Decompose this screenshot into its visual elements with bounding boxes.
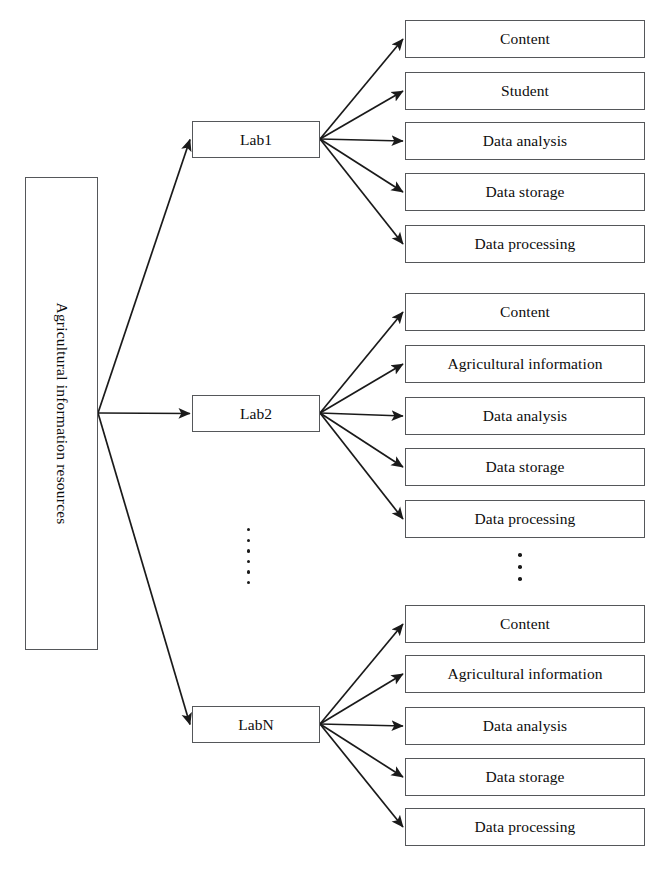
leaf-node-label: Data analysis [483, 717, 567, 734]
leaf-node-label: Data storage [485, 768, 564, 785]
leaf-node-label: Data processing [475, 818, 576, 835]
root-node-label: Agricultural information resources [53, 302, 70, 524]
edge-lab2-to-leaf-3 [320, 413, 403, 467]
leaf-node-label: Data processing [475, 235, 576, 252]
lab-node-2[interactable]: Lab2 [192, 395, 320, 432]
leaf-node-lab1-data-storage[interactable]: Data storage [405, 173, 645, 211]
leaf-node-lab2-data-analysis[interactable]: Data analysis [405, 397, 645, 435]
edge-root-to-lab2 [98, 413, 190, 414]
leaf-node-lab2-data-processing[interactable]: Data processing [405, 500, 645, 538]
edge-lab2-to-leaf-1 [320, 364, 403, 413]
leaf-node-lab1-content[interactable]: Content [405, 20, 645, 58]
leaf-node-label: Student [501, 82, 549, 99]
edge-lab1-to-leaf-1 [320, 91, 403, 139]
root-node-agricultural-information-resources[interactable]: Agricultural information resources [25, 177, 98, 650]
edge-lab2-to-leaf-2 [320, 413, 403, 416]
leaf-node-label: Data storage [485, 183, 564, 200]
lab-node-n[interactable]: LabN [192, 706, 320, 743]
leaf-node-label: Agricultural information [447, 665, 602, 682]
lab-column-ellipsis-icon [247, 528, 250, 591]
edge-lab1-to-leaf-3 [320, 139, 403, 192]
leaf-node-label: Content [500, 303, 550, 320]
edge-lab1-to-leaf-0 [320, 39, 403, 139]
leaf-node-lab1-data-processing[interactable]: Data processing [405, 225, 645, 263]
leaf-node-label: Content [500, 30, 550, 47]
leaf-node-labn-agricultural-information[interactable]: Agricultural information [405, 655, 645, 693]
lab-node-n-label: LabN [238, 716, 274, 733]
leaf-node-lab2-content[interactable]: Content [405, 293, 645, 331]
lab-node-1-label: Lab1 [240, 131, 272, 148]
lab-node-1[interactable]: Lab1 [192, 121, 320, 158]
edge-root-to-lab1 [98, 140, 190, 414]
leaf-node-lab1-student[interactable]: Student [405, 72, 645, 110]
edge-lab2-to-leaf-0 [320, 312, 403, 413]
leaf-node-label: Agricultural information [447, 355, 602, 372]
leaf-node-labn-data-processing[interactable]: Data processing [405, 808, 645, 846]
edge-lab1-to-leaf-4 [320, 139, 403, 244]
edge-root-to-labn [98, 413, 190, 725]
lab-node-2-label: Lab2 [240, 405, 272, 422]
leaf-node-lab2-agricultural-information[interactable]: Agricultural information [405, 345, 645, 383]
leaf-node-labn-data-storage[interactable]: Data storage [405, 758, 645, 796]
leaf-node-label: Data analysis [483, 407, 567, 424]
edge-lab1-to-leaf-2 [320, 139, 403, 141]
edge-labn-to-leaf-0 [320, 624, 403, 724]
leaf-node-lab2-data-storage[interactable]: Data storage [405, 448, 645, 486]
leaf-node-labn-content[interactable]: Content [405, 605, 645, 643]
leaf-node-label: Data analysis [483, 132, 567, 149]
edge-labn-to-leaf-3 [320, 724, 403, 777]
edge-labn-to-leaf-1 [320, 674, 403, 724]
leaf-column-ellipsis-icon [518, 553, 522, 590]
diagram-canvas: Agricultural information resources Lab1 … [0, 0, 668, 870]
leaf-node-label: Data storage [485, 458, 564, 475]
edge-labn-to-leaf-2 [320, 724, 403, 726]
leaf-node-labn-data-analysis[interactable]: Data analysis [405, 707, 645, 745]
edge-labn-to-leaf-4 [320, 724, 403, 827]
leaf-node-label: Data processing [475, 510, 576, 527]
leaf-node-label: Content [500, 615, 550, 632]
edge-lab2-to-leaf-4 [320, 413, 403, 519]
leaf-node-lab1-data-analysis[interactable]: Data analysis [405, 122, 645, 160]
